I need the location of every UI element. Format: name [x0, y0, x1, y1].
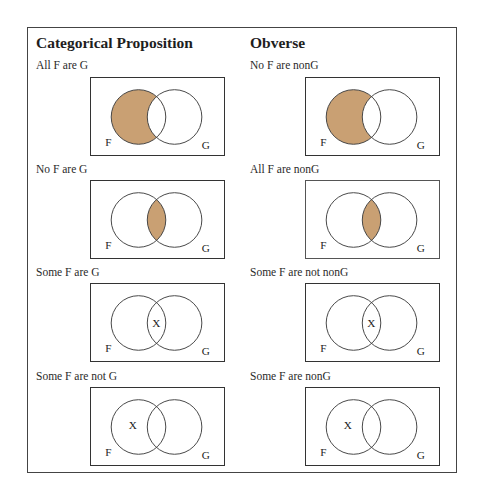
set-label-f: F [105, 342, 111, 354]
circle-g [362, 400, 417, 455]
set-label-f: F [105, 239, 111, 251]
circle-f [111, 400, 166, 455]
x-mark-intersection: X [367, 317, 375, 329]
venn-diagram-all-f-are-nong: F G [305, 180, 440, 259]
venn-svg: X F G [91, 284, 224, 361]
venn-diagram-no-f-are-g: F G [90, 180, 225, 259]
set-label-g: G [417, 345, 425, 357]
venn-diagram-some-f-are-g: X F G [90, 283, 225, 362]
venn-diagram-some-f-are-not-g: X F G [90, 387, 225, 466]
set-label-f: F [320, 446, 326, 458]
venn-svg: F G [306, 78, 439, 155]
venn-svg: F G [306, 181, 439, 258]
proposition-label-3: Some F are G [36, 266, 100, 278]
proposition-label-1: All F are G [36, 59, 88, 71]
x-mark-intersection: X [152, 317, 160, 329]
set-label-f: F [320, 342, 326, 354]
header-categorical-proposition: Categorical Proposition [36, 34, 193, 52]
venn-svg: F G [91, 181, 224, 258]
x-mark-f-only: X [129, 419, 137, 431]
venn-svg: X F G [306, 388, 439, 465]
venn-svg: F G [91, 78, 224, 155]
circle-g [147, 400, 202, 455]
set-label-g: G [417, 242, 425, 254]
set-label-g: G [417, 139, 425, 151]
venn-diagram-all-f-are-g: F G [90, 77, 225, 156]
obverse-label-1: No F are nonG [250, 59, 319, 71]
proposition-label-4: Some F are not G [36, 370, 117, 382]
set-label-g: G [202, 139, 210, 151]
venn-svg: X F G [306, 284, 439, 361]
venn-diagram-some-f-are-nong: X F G [305, 387, 440, 466]
x-mark-f-only: X [344, 419, 352, 431]
header-obverse: Obverse [250, 34, 305, 52]
set-label-g: G [202, 242, 210, 254]
set-label-g: G [202, 345, 210, 357]
set-label-f: F [320, 239, 326, 251]
set-label-g: G [417, 449, 425, 461]
obverse-label-3: Some F are not nonG [250, 266, 348, 278]
circle-f [326, 400, 381, 455]
venn-diagram-no-f-are-nong: F G [305, 77, 440, 156]
set-label-f: F [105, 446, 111, 458]
obverse-label-2: All F are nonG [250, 163, 319, 175]
venn-diagram-some-f-are-not-nong: X F G [305, 283, 440, 362]
set-label-f: F [320, 136, 326, 148]
venn-svg: X F G [91, 388, 224, 465]
obverse-label-4: Some F are nonG [250, 370, 331, 382]
set-label-g: G [202, 449, 210, 461]
set-label-f: F [105, 136, 111, 148]
proposition-label-2: No F are G [36, 163, 87, 175]
